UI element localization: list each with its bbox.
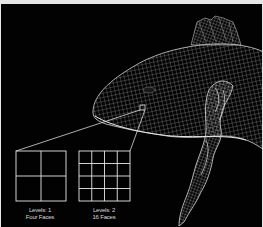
figure-canvas: Levels: 1 Four Faces Levels: 2 16 Faces (1, 4, 262, 227)
wireframe-illustration (1, 4, 262, 227)
head-mesh (93, 44, 262, 150)
gill-top (191, 16, 241, 45)
leader-line-left (16, 110, 140, 151)
panel-subtitle: 16 Faces (74, 214, 134, 221)
grid-level-2 (79, 151, 130, 201)
panel-label-level-2: Levels: 2 16 Faces (74, 207, 134, 221)
panel-subtitle: Four Faces (10, 214, 70, 221)
panel-label-level-1: Levels: 1 Four Faces (10, 207, 70, 221)
panel-title: Levels: 2 (74, 207, 134, 214)
panel-title: Levels: 1 (10, 207, 70, 214)
eye (143, 87, 155, 93)
figure-frame: Levels: 1 Four Faces Levels: 2 16 Faces (0, 0, 263, 227)
grid-level-1 (16, 151, 66, 201)
